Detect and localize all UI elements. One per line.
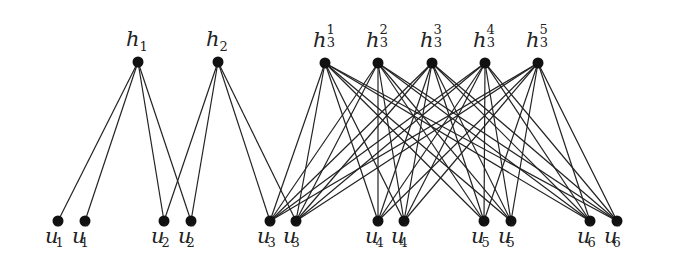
label-u1pp: u″1: [72, 222, 90, 250]
edge-h1-u1pp: [85, 62, 138, 221]
labels-layer: h1h2h13h23h33h43h53u′1u″1u′2u″2u′3u″3u′4…: [45, 22, 622, 250]
label-h3_5: h53: [526, 22, 548, 52]
edge-h3_5-u5p: [484, 63, 538, 221]
label-u5p: u′5: [471, 222, 490, 250]
node-h3_5: [533, 58, 544, 69]
label-u3p: u′3: [257, 222, 276, 250]
node-h3_4: [480, 58, 491, 69]
edge-h1-u2p: [138, 62, 164, 221]
label-u6pp: u″6: [604, 222, 622, 250]
edge-h2-u2pp: [191, 62, 218, 221]
label-h3_3: h33: [420, 22, 442, 52]
label-h2: h2: [206, 27, 228, 54]
edge-h3_5-u3pp: [296, 63, 538, 221]
label-h3_2: h23: [366, 22, 388, 52]
node-h3_1: [320, 58, 331, 69]
node-h3_2: [373, 58, 384, 69]
label-u3pp: u″3: [283, 222, 301, 250]
edge-h3_5-u4p: [378, 63, 538, 221]
edge-h3_5-u6p: [538, 63, 590, 221]
edge-h3_4-u5p: [484, 63, 485, 221]
edge-h3_5-u5pp: [511, 63, 538, 221]
edge-h2-u3p: [218, 62, 270, 221]
label-u1p: u′1: [45, 222, 64, 250]
label-u2p: u′2: [151, 222, 170, 250]
node-h2: [213, 57, 224, 68]
label-u4pp: u″4: [391, 222, 409, 250]
label-h3_1: h13: [313, 22, 335, 52]
label-u5pp: u″5: [498, 222, 516, 250]
label-u2pp: u″2: [178, 222, 196, 250]
edge-h1-u2pp: [138, 62, 191, 221]
edge-h1-u1p: [58, 62, 138, 221]
edge-h2-u3pp: [218, 62, 296, 221]
label-h3_4: h43: [473, 22, 495, 52]
label-u6p: u′6: [577, 222, 596, 250]
bipartite-graph: h1h2h13h23h33h43h53u′1u″1u′2u″2u′3u″3u′4…: [0, 0, 673, 276]
edge-h2-u2p: [164, 62, 218, 221]
label-u4p: u′4: [365, 222, 384, 250]
node-h1: [133, 57, 144, 68]
label-h1: h1: [126, 27, 148, 54]
node-h3_3: [427, 58, 438, 69]
edges-layer: [58, 62, 617, 221]
